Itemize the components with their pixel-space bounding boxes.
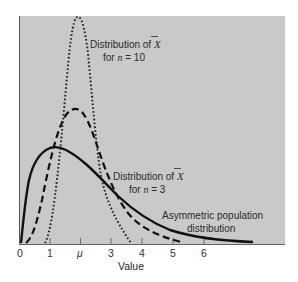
tick-label-0: 0: [17, 247, 23, 259]
tick-label-6: 6: [201, 247, 207, 259]
sampling-distribution-chart: Distribution of X for n = 10 Distributio…: [0, 0, 298, 282]
tick-label-1: 1: [47, 247, 53, 259]
tick-label-mu: μ: [76, 247, 83, 259]
tick-label-3: 3: [108, 247, 114, 259]
annotation-population-line1: Asymmetric population: [162, 210, 263, 221]
x-axis-label: Value: [118, 260, 144, 272]
annotation-n10-line2: for n = 10: [103, 52, 145, 63]
tick-label-4: 4: [139, 247, 145, 259]
annotation-n3-line2: for n = 3: [129, 184, 166, 195]
x-tick-labels: 0 1 μ 3 4 5 6: [17, 247, 207, 259]
tick-label-5: 5: [170, 247, 176, 259]
annotation-population-line2: distribution: [187, 223, 235, 234]
annotation-n3-line1: Distribution of X: [113, 170, 185, 182]
annotation-n10-line1: Distribution of X: [90, 38, 162, 50]
